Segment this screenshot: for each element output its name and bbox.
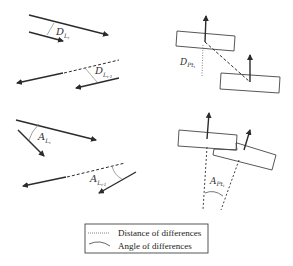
- distance-marker: [47, 23, 54, 35]
- line-arrow: [76, 78, 119, 88]
- distance-label: DLi-1: [94, 65, 112, 79]
- angle-label: APti: [209, 176, 225, 188]
- angle-label: ALi-1: [89, 173, 106, 187]
- distance-points-panel: DPti: [176, 16, 280, 93]
- extension-dashed: [64, 60, 119, 73]
- line-arrow: [23, 177, 66, 186]
- distance-label: DLi: [55, 26, 70, 40]
- angle-arc: [205, 192, 223, 196]
- distance-dotted: [202, 45, 203, 76]
- angle-lines-panel: ALi ALi-1: [16, 120, 136, 193]
- distance-dashed: [205, 42, 250, 82]
- angle-points-panel: APti: [178, 113, 276, 210]
- line-arrow: [17, 73, 63, 83]
- heading-arrow: [205, 16, 206, 42]
- legend-label-distance: Distance of differences: [118, 228, 202, 238]
- angle-label: ALi: [37, 131, 51, 145]
- distance-label: DPti: [179, 57, 196, 69]
- diagram-canvas: DLi DLi-1 DPti ALi ALi-1 APt: [0, 0, 293, 266]
- legend: Distance of differences Angle of differe…: [85, 224, 208, 253]
- legend-label-angle: Angle of differences: [118, 241, 192, 251]
- angle-arc: [112, 166, 122, 179]
- angle-ray-dashed: [203, 147, 207, 210]
- distance-lines-panel: DLi DLi-1: [17, 15, 119, 88]
- line-arrow: [29, 15, 108, 35]
- line-arrow: [16, 120, 96, 140]
